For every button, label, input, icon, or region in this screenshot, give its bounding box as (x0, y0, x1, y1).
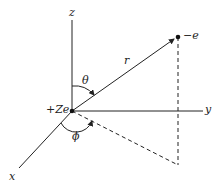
theta-arc (72, 86, 94, 95)
phi-label: ϕ (72, 131, 80, 142)
nucleus-label: +Ze (46, 104, 69, 115)
electron-point (176, 35, 181, 40)
x-axis (19, 111, 72, 168)
spherical-coordinates-diagram: z y x +Ze −e r θ ϕ (0, 0, 222, 188)
y-axis-label: y (205, 104, 211, 115)
radius-label: r (124, 55, 129, 66)
nucleus-point (70, 109, 75, 114)
projection-xy (72, 111, 178, 165)
theta-label: θ (82, 75, 89, 86)
x-axis-label: x (9, 171, 15, 182)
electron-label: −e (183, 30, 199, 41)
z-axis-label: z (69, 7, 75, 18)
